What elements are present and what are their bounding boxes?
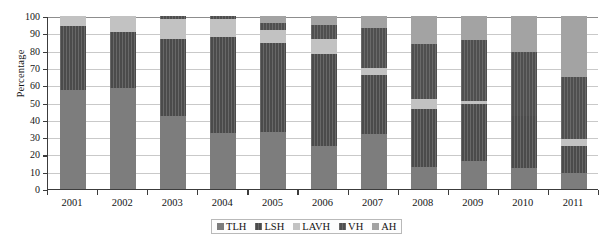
legend-entry-LAVH[interactable]: LAVH [293, 221, 330, 232]
y-axis-tick-mark [43, 104, 47, 105]
bar-segment-2006-LAVH[interactable] [311, 39, 337, 55]
y-axis-tick-mark [43, 52, 47, 53]
bar-segment-2003-LAVH[interactable] [160, 19, 186, 38]
y-axis-tick-label: 60 [6, 81, 40, 91]
legend-entry-VH[interactable]: VH [339, 221, 363, 232]
x-axis-tick-label-2003: 2003 [144, 197, 200, 208]
bar-segment-2011-LSH[interactable] [561, 146, 587, 174]
bar-segment-2008-LAVH[interactable] [411, 99, 437, 109]
bar-2005[interactable] [260, 16, 286, 189]
x-axis-tick-mark [398, 190, 399, 195]
bar-segment-2007-LSH[interactable] [361, 75, 387, 134]
x-axis-tick-label-2005: 2005 [244, 197, 300, 208]
bar-segment-2001-TLH[interactable] [60, 90, 86, 189]
x-axis-tick-label-2011: 2011 [545, 197, 601, 208]
bar-segment-2008-VH[interactable] [411, 44, 437, 99]
y-axis-tick-label: 90 [6, 29, 40, 39]
y-axis-tick-mark [43, 17, 47, 18]
legend-label: TLH [226, 221, 246, 232]
bar-2011[interactable] [561, 16, 587, 189]
legend-entry-TLH[interactable]: TLH [217, 221, 246, 232]
bar-segment-2006-VH[interactable] [311, 25, 337, 39]
y-axis-tick-label: 50 [6, 99, 40, 109]
bar-segment-2011-TLH[interactable] [561, 173, 587, 189]
x-axis-tick-label-2008: 2008 [395, 197, 451, 208]
legend-entry-AH[interactable]: AH [372, 221, 396, 232]
legend-label: LSH [264, 221, 284, 232]
x-axis-tick-label-2004: 2004 [194, 197, 250, 208]
bar-segment-2003-VH[interactable] [160, 16, 186, 19]
bar-2004[interactable] [210, 16, 236, 189]
y-axis-tick-mark [43, 138, 47, 139]
bar-segment-2005-LSH[interactable] [260, 43, 286, 132]
bar-segment-2010-TLH[interactable] [511, 168, 537, 189]
bar-segment-2010-VH[interactable] [511, 52, 537, 116]
bar-2008[interactable] [411, 16, 437, 189]
bar-segment-2010-LSH[interactable] [511, 116, 537, 168]
bar-segment-2006-TLH[interactable] [311, 146, 337, 189]
bar-segment-2005-AH[interactable] [260, 16, 286, 23]
bar-segment-2001-LSH[interactable] [60, 26, 86, 90]
bar-segment-2006-AH[interactable] [311, 16, 337, 25]
bar-segment-2007-AH[interactable] [361, 16, 387, 28]
bar-segment-2008-AH[interactable] [411, 16, 437, 44]
bar-segment-2005-LAVH[interactable] [260, 30, 286, 43]
bar-segment-2002-TLH[interactable] [110, 88, 136, 189]
bar-2001[interactable] [60, 16, 86, 189]
bar-segment-2007-LAVH[interactable] [361, 68, 387, 75]
stacked-bar-chart: Percentage 1009080706050403020100 200120… [0, 0, 608, 245]
bar-segment-2006-LSH[interactable] [311, 54, 337, 146]
bar-segment-2007-VH[interactable] [361, 28, 387, 68]
bar-segment-2005-VH[interactable] [260, 23, 286, 30]
legend-swatch-LSH-icon [255, 223, 262, 230]
legend-swatch-VH-icon [339, 223, 346, 230]
legend-swatch-TLH-icon [217, 223, 224, 230]
bar-2009[interactable] [461, 16, 487, 189]
bar-segment-2002-LSH[interactable] [110, 32, 136, 88]
bar-segment-2009-LSH[interactable] [461, 104, 487, 161]
x-axis-tick-mark [448, 190, 449, 195]
bar-segment-2011-LAVH[interactable] [561, 139, 587, 146]
y-axis-tick-mark [43, 155, 47, 156]
x-axis-tick-mark [47, 190, 48, 195]
bar-2010[interactable] [511, 16, 537, 189]
y-axis-tick-mark [43, 69, 47, 70]
bar-segment-2009-TLH[interactable] [461, 161, 487, 189]
bar-segment-2010-AH[interactable] [511, 16, 537, 52]
x-axis-tick-label-2007: 2007 [345, 197, 401, 208]
x-axis-tick-label-2002: 2002 [94, 197, 150, 208]
bar-2003[interactable] [160, 16, 186, 189]
bar-2006[interactable] [311, 16, 337, 189]
x-axis-tick-mark [548, 190, 549, 195]
bar-segment-2009-VH[interactable] [461, 40, 487, 101]
bar-segment-2004-TLH[interactable] [210, 133, 236, 189]
y-axis-tick-mark [43, 86, 47, 87]
x-axis-tick-mark [297, 190, 298, 195]
legend-label: VH [348, 221, 363, 232]
legend-swatch-LAVH-icon [293, 223, 300, 230]
bar-segment-2007-TLH[interactable] [361, 134, 387, 189]
legend-label: AH [381, 221, 396, 232]
y-axis-tick-mark [43, 173, 47, 174]
bar-segment-2004-LSH[interactable] [210, 37, 236, 133]
bar-segment-2003-TLH[interactable] [160, 116, 186, 189]
bar-2007[interactable] [361, 16, 387, 189]
bar-segment-2009-AH[interactable] [461, 16, 487, 40]
bar-segment-2001-LAVH[interactable] [60, 16, 86, 26]
bar-segment-2004-LAVH[interactable] [210, 19, 236, 37]
bar-segment-2008-LSH[interactable] [411, 109, 437, 166]
bar-segment-2003-LSH[interactable] [160, 39, 186, 117]
bar-segment-2005-TLH[interactable] [260, 132, 286, 189]
x-axis-tick-label-2009: 2009 [445, 197, 501, 208]
legend-entry-LSH[interactable]: LSH [255, 221, 284, 232]
bar-segment-2011-AH[interactable] [561, 16, 587, 77]
bar-segment-2002-LAVH[interactable] [110, 16, 136, 32]
legend-label: LAVH [302, 221, 330, 232]
bar-2002[interactable] [110, 16, 136, 189]
x-axis-tick-mark [348, 190, 349, 195]
bar-segment-2011-VH[interactable] [561, 77, 587, 139]
bar-segment-2004-VH[interactable] [210, 16, 236, 19]
bar-segment-2008-TLH[interactable] [411, 167, 437, 189]
bar-segment-2009-LAVH[interactable] [461, 101, 487, 104]
y-axis-tick-label: 70 [6, 64, 40, 74]
